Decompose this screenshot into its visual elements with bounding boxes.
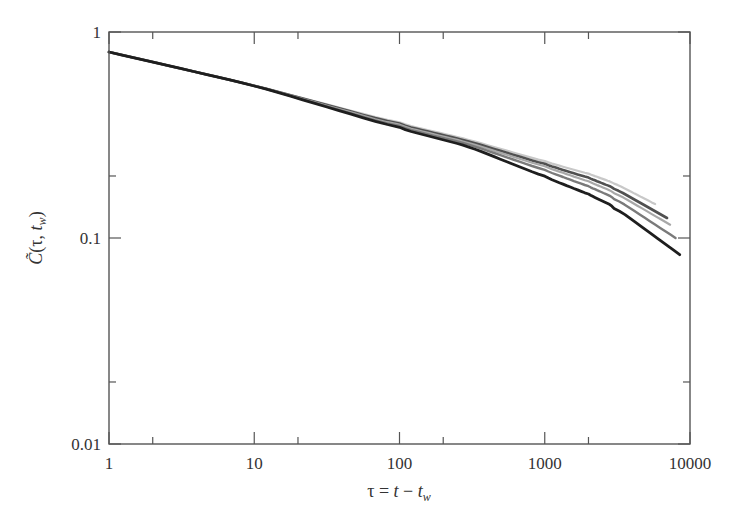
- y-tick-label: 1: [93, 23, 102, 42]
- chart: 110100100010000 0.010.11 τ = t − tw C̃(τ…: [0, 0, 734, 517]
- x-tick-label: 10000: [669, 454, 712, 473]
- axis-ticks: [109, 32, 690, 444]
- x-tick-labels: 110100100010000: [105, 454, 712, 473]
- data-series-curve: [109, 52, 670, 225]
- y-axis-label: C̃(τ, tw): [26, 211, 49, 264]
- x-tick-label: 10: [246, 454, 263, 473]
- x-tick-label: 100: [387, 454, 413, 473]
- y-tick-label: 0.1: [80, 229, 101, 248]
- data-curves: [109, 52, 680, 255]
- x-tick-label: 1: [105, 454, 114, 473]
- data-series-curve: [109, 52, 680, 255]
- x-tick-label: 1000: [528, 454, 562, 473]
- data-series-curve: [109, 52, 676, 238]
- plot-frame: [109, 32, 690, 444]
- y-tick-label: 0.01: [71, 435, 101, 454]
- y-tick-labels: 0.010.11: [71, 23, 101, 454]
- x-axis-label: τ = t − tw: [367, 481, 431, 504]
